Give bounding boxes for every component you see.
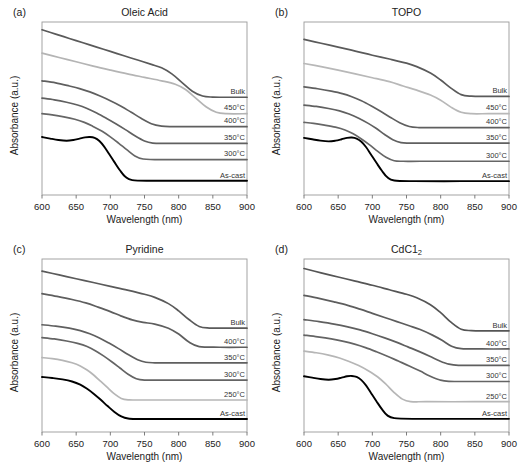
spectrum-curve [42, 377, 247, 419]
x-tick-label: 900 [501, 438, 517, 449]
curve-label: 300°C [224, 149, 246, 158]
spectrum-curve [42, 358, 247, 400]
x-tick-label: 600 [34, 438, 50, 449]
curve-label: 450°C [224, 103, 246, 112]
spectrum-curve [304, 320, 509, 366]
spectra-figure: (a) Oleic Acid Absorbance (a.u.) 6006507… [0, 0, 525, 474]
x-tick-label: 700 [102, 201, 118, 212]
x-tick-label: 700 [102, 438, 118, 449]
spectrum-curve [304, 138, 509, 182]
curve-label: 400°C [224, 337, 246, 346]
x-tick-label: 850 [467, 438, 483, 449]
curve-label: 400°C [224, 116, 246, 125]
spectrum-curve [42, 338, 247, 381]
x-tick-label: 650 [330, 201, 346, 212]
curve-label: As-cast [220, 409, 246, 418]
curve-label: Bulk [492, 321, 507, 330]
x-tick-label: 600 [296, 201, 312, 212]
spectrum-curve [42, 294, 247, 348]
x-tick-label: 750 [137, 438, 153, 449]
x-tick-label: 800 [433, 438, 449, 449]
curve-label: 450°C [486, 103, 508, 112]
panel-a-plot: 600650700750800850900Bulk450°C400°C350°C… [0, 0, 262, 237]
panel-d-plot: 600650700750800850900Bulk400°C350°C300°C… [262, 237, 524, 474]
panel-b: (b) TOPO Absorbance (a.u.) 6006507007508… [262, 0, 524, 237]
curve-label: As-cast [482, 409, 508, 418]
panel-d-xlabel: Wavelength (nm) [304, 451, 509, 462]
curve-label: 350°C [486, 355, 508, 364]
x-tick-label: 650 [330, 438, 346, 449]
panel-c: (c) Pyridine Absorbance (a.u.) 600650700… [0, 237, 262, 474]
curve-label: 350°C [224, 133, 246, 142]
x-tick-label: 800 [171, 201, 187, 212]
spectrum-curve [304, 295, 509, 349]
curve-label: 350°C [486, 133, 508, 142]
curve-label: 400°C [486, 117, 508, 126]
x-tick-label: 750 [399, 438, 415, 449]
x-tick-label: 750 [137, 201, 153, 212]
panel-c-xlabel: Wavelength (nm) [42, 451, 247, 462]
x-tick-label: 850 [205, 438, 221, 449]
spectrum-curve [42, 325, 247, 363]
panel-a: (a) Oleic Acid Absorbance (a.u.) 6006507… [0, 0, 262, 237]
x-tick-label: 750 [399, 201, 415, 212]
x-tick-label: 650 [68, 201, 84, 212]
spectrum-curve [304, 105, 509, 143]
curve-label: As-cast [482, 171, 508, 180]
curve-label: Bulk [492, 86, 507, 95]
curve-label: Bulk [230, 318, 245, 327]
panel-b-plot: 600650700750800850900Bulk450°C400°C350°C… [262, 0, 524, 237]
curve-label: 300°C [486, 371, 508, 380]
spectrum-curve [304, 376, 509, 419]
spectrum-curve [304, 87, 509, 128]
curve-label: 250°C [486, 392, 508, 401]
panel-c-plot: 600650700750800850900Bulk400°C350°C300°C… [0, 237, 262, 474]
panel-a-xlabel: Wavelength (nm) [42, 214, 247, 225]
curve-label: Bulk [230, 87, 245, 96]
curve-label: 400°C [486, 339, 508, 348]
panel-d: (d) CdC12 Absorbance (a.u.) 600650700750… [262, 237, 524, 474]
x-tick-label: 900 [239, 438, 255, 449]
spectrum-curve [304, 351, 509, 402]
curve-label: As-cast [220, 171, 246, 180]
curve-label: 250°C [224, 390, 246, 399]
curve-label: 300°C [486, 151, 508, 160]
x-tick-label: 800 [433, 201, 449, 212]
x-tick-label: 900 [239, 201, 255, 212]
x-tick-label: 800 [171, 438, 187, 449]
curve-label: 350°C [224, 353, 246, 362]
x-tick-label: 850 [467, 201, 483, 212]
x-tick-label: 700 [364, 438, 380, 449]
x-tick-label: 650 [68, 438, 84, 449]
spectrum-curve [304, 269, 509, 331]
x-tick-label: 600 [34, 201, 50, 212]
panel-b-xlabel: Wavelength (nm) [304, 214, 509, 225]
x-tick-label: 600 [296, 438, 312, 449]
curve-label: 300°C [224, 370, 246, 379]
x-tick-label: 900 [501, 201, 517, 212]
spectrum-curve [304, 335, 509, 381]
x-tick-label: 700 [364, 201, 380, 212]
spectrum-curve [304, 64, 509, 114]
x-tick-label: 850 [205, 201, 221, 212]
